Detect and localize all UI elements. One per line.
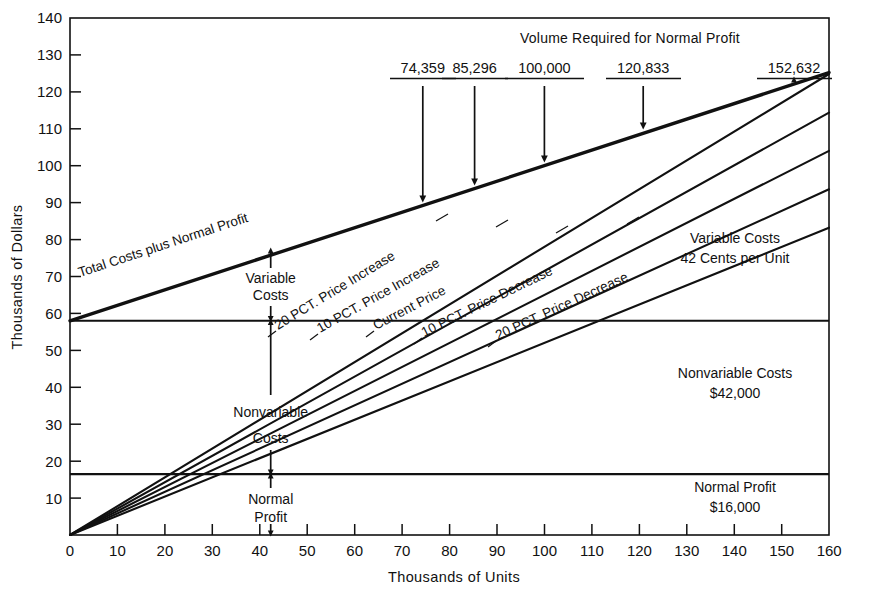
x-tick-70: 70: [394, 542, 411, 559]
breakeven-label-74359: 74,359: [401, 60, 445, 76]
volume-required-header: Volume Required for Normal Profit: [520, 30, 740, 46]
plot-frame: [70, 18, 829, 535]
breakeven-label-100000: 100,000: [518, 60, 570, 76]
y-tick-120: 120: [37, 83, 62, 100]
annot-profit-line1: Normal: [248, 491, 293, 507]
x-tick-140: 140: [722, 542, 747, 559]
revenue-line-20pct-increase: [70, 74, 829, 535]
region-label-normal-profit: Normal Profit $16,000: [694, 479, 776, 515]
x-tick-20: 20: [157, 542, 174, 559]
annot-profit-line2: Profit: [254, 509, 287, 525]
annot-variable-line2: Costs: [253, 287, 289, 303]
region-profit-title: Normal Profit: [694, 479, 776, 495]
breakeven-marker-85296: 85,296: [442, 60, 508, 182]
total-cost-line: [70, 73, 829, 321]
y-tick-50: 50: [45, 342, 62, 359]
annot-variable-line1: Variable: [246, 270, 297, 286]
breakeven-label-85296: 85,296: [452, 60, 496, 76]
x-tick-10: 10: [109, 542, 126, 559]
chart-figure: 10 20 30 40 50 60 70 80 90 100 110 120 1…: [0, 0, 878, 600]
y-tick-10: 10: [45, 490, 62, 507]
region-variable-value: 42 Cents per Unit: [681, 250, 790, 266]
y-axis-tick-labels: 10 20 30 40 50 60 70 80 90 100 110 120 1…: [37, 9, 62, 506]
y-axis-title: Thousands of Dollars: [9, 204, 25, 349]
region-profit-value: $16,000: [710, 499, 761, 515]
breakeven-marker-100000: 100,000: [505, 60, 584, 159]
annot-nonvariable-line1: Nonvariable: [233, 404, 308, 420]
x-tick-90: 90: [489, 542, 506, 559]
region-nonvariable-title: Nonvariable Costs: [678, 365, 792, 381]
break-even-chart: 10 20 30 40 50 60 70 80 90 100 110 120 1…: [0, 0, 878, 600]
x-tick-80: 80: [441, 542, 458, 559]
x-tick-100: 100: [532, 542, 557, 559]
breakeven-label-120833: 120,833: [617, 60, 669, 76]
region-nonvariable-value: $42,000: [710, 385, 761, 401]
x-tick-150: 150: [769, 542, 794, 559]
x-tick-130: 130: [674, 542, 699, 559]
x-tick-160: 160: [817, 542, 842, 559]
label-10pct-price-decrease: 10 PCT. Price Decrease: [419, 263, 555, 340]
y-tick-110: 110: [38, 120, 62, 137]
annotation-normal-profit: Normal Profit: [248, 476, 293, 534]
y-tick-130: 130: [37, 46, 62, 63]
y-tick-100: 100: [37, 157, 62, 174]
x-tick-50: 50: [299, 542, 316, 559]
y-tick-60: 60: [45, 305, 62, 322]
revenue-line-current-price: [70, 151, 829, 535]
breakeven-label-152632: 152,632: [768, 60, 820, 76]
x-axis-title: Thousands of Units: [388, 569, 520, 585]
x-tick-0: 0: [66, 542, 74, 559]
region-label-variable-costs: Variable Costs 42 Cents per Unit: [681, 230, 790, 266]
region-label-nonvariable-costs: Nonvariable Costs $42,000: [678, 365, 792, 401]
region-variable-title: Variable Costs: [690, 230, 780, 246]
x-axis-ticks: [117, 524, 781, 535]
y-tick-90: 90: [45, 194, 62, 211]
breakeven-marker-74359: 74,359: [390, 60, 456, 199]
x-tick-40: 40: [251, 542, 268, 559]
x-tick-110: 110: [580, 542, 604, 559]
y-tick-80: 80: [45, 231, 62, 248]
y-tick-70: 70: [45, 268, 62, 285]
x-axis-tick-labels: 0 10 20 30 40 50 60 70 80 90 100 110 120…: [66, 542, 842, 559]
x-tick-120: 120: [627, 542, 652, 559]
y-tick-40: 40: [45, 379, 62, 396]
breakeven-marker-120833: 120,833: [606, 60, 681, 126]
x-tick-60: 60: [346, 542, 363, 559]
breakeven-marker-152632: 152,632: [757, 60, 832, 82]
y-tick-30: 30: [45, 416, 62, 433]
annot-nonvariable-line2: Costs: [253, 430, 289, 446]
y-tick-20: 20: [45, 453, 62, 470]
x-tick-30: 30: [204, 542, 221, 559]
y-tick-140: 140: [37, 9, 62, 26]
